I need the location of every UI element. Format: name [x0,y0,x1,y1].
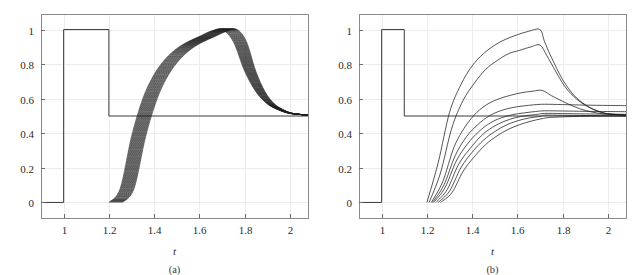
panel-a: 11.21.41.61.8200.20.40.60.81t(a) [0,0,318,275]
chart-b: 11.21.41.61.8200.20.40.60.81t(b) [318,0,636,275]
xtick-label: 1 [380,224,386,236]
axis-ticks: 11.21.41.61.8200.20.40.60.81 [20,25,293,237]
xtick-label: 1.8 [239,224,253,236]
ytick-label: 1 [347,25,353,37]
chart-a: 11.21.41.61.8200.20.40.60.81t(a) [0,0,318,275]
series-response-2 [429,45,626,203]
x-axis-title: t [491,245,495,257]
xtick-label: 2 [288,224,294,236]
xtick-label: 2 [606,224,612,236]
panel-caption: (b) [486,264,499,275]
ytick-label: 0 [29,197,35,209]
ytick-label: 0.8 [338,59,352,71]
xtick-label: 1.4 [148,224,162,236]
ytick-label: 0.6 [338,94,352,106]
panel-caption: (a) [169,264,181,275]
ytick-label: 0.4 [338,128,352,140]
axis-ticks: 11.21.41.61.8200.20.40.60.81 [338,25,611,237]
series-response-7 [438,115,626,202]
ytick-label: 0 [347,197,353,209]
ytick-label: 0.6 [20,94,34,106]
xtick-label: 1.4 [466,224,480,236]
xtick-label: 1.8 [557,224,571,236]
xtick-label: 1 [62,224,68,236]
xtick-label: 1.2 [103,224,117,236]
figure-container: 11.21.41.61.8200.20.40.60.81t(a) 11.21.4… [0,0,637,275]
xtick-label: 1.6 [193,224,207,236]
series-response-5 [434,111,626,203]
ytick-label: 0.2 [338,163,352,175]
ytick-label: 0.8 [20,59,34,71]
curves [41,29,308,203]
panel-b: 11.21.41.61.8200.20.40.60.81t(b) [318,0,636,275]
xtick-label: 1.2 [421,224,435,236]
ytick-label: 1 [29,25,35,37]
series-response-8 [440,116,626,202]
x-axis-title: t [173,245,177,257]
ytick-label: 0.4 [20,128,34,140]
series-response-4 [433,104,626,202]
series-response-6 [436,113,626,202]
curves [359,29,626,202]
ytick-label: 0.2 [20,163,34,175]
xtick-label: 1.6 [511,224,525,236]
